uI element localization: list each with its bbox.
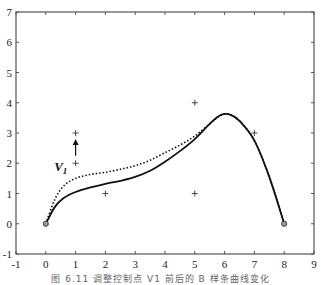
y-tick-label: -1 — [3, 248, 12, 260]
y-tick-label: 0 — [7, 218, 13, 230]
x-tick-label: 2 — [103, 258, 109, 270]
endpoint-marker — [43, 221, 48, 226]
x-tick-label: 6 — [222, 258, 228, 270]
endpoint-marker — [282, 221, 287, 226]
x-tick-label: 9 — [311, 258, 317, 270]
annotations: V1 — [54, 139, 78, 176]
axes — [16, 12, 314, 254]
arrow-head-icon — [73, 139, 79, 145]
y-tick-label: 3 — [7, 127, 13, 139]
x-tick-label: 7 — [252, 258, 258, 270]
ticks: -10123456789-101234567 — [3, 6, 317, 270]
x-tick-label: 0 — [43, 258, 49, 270]
y-tick-label: 6 — [7, 36, 13, 48]
curves — [46, 114, 284, 224]
y-tick-label: 4 — [7, 97, 13, 109]
x-tick-label: 8 — [281, 258, 287, 270]
y-tick-label: 7 — [7, 6, 13, 18]
v1-label: V1 — [54, 159, 67, 176]
x-tick-label: 4 — [162, 258, 168, 270]
x-tick-label: 3 — [132, 258, 138, 270]
x-tick-label: 1 — [73, 258, 79, 270]
y-tick-label: 1 — [7, 188, 13, 200]
x-tick-label: -1 — [11, 258, 20, 270]
x-tick-label: 5 — [192, 258, 198, 270]
figure-caption: 图 6.11 调整控制点 V1 前后的 B 样条曲线变化 — [0, 272, 321, 285]
markers — [43, 100, 287, 227]
solid-curve — [46, 114, 284, 224]
y-tick-label: 2 — [7, 157, 13, 169]
y-tick-label: 5 — [7, 67, 13, 79]
plot-frame — [16, 12, 314, 254]
